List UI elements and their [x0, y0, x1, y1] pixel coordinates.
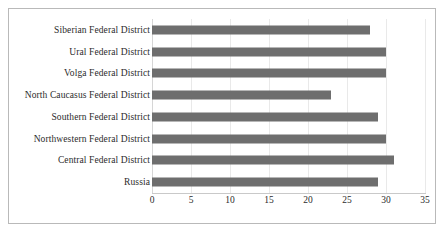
bar-row: Southern Federal District — [9, 106, 435, 128]
category-label: Ural Federal District — [69, 47, 150, 57]
x-tick-label-0: 0 — [150, 195, 155, 205]
category-label: Russia — [124, 177, 150, 187]
x-tick-label-35: 35 — [420, 195, 430, 205]
chart-frame: Siberian Federal DistrictUral Federal Di… — [8, 8, 436, 224]
x-axis-tick-labels: 05101520253035 — [9, 195, 435, 211]
bar-row: Ural Federal District — [9, 41, 435, 63]
bar-track — [152, 178, 431, 187]
x-tick-label-30: 30 — [381, 195, 391, 205]
bar[interactable] — [152, 91, 331, 100]
bar[interactable] — [152, 134, 386, 143]
bar-track — [152, 47, 431, 56]
x-tick-label-5: 5 — [189, 195, 194, 205]
bar-row: Russia — [9, 171, 435, 193]
bar-track — [152, 69, 431, 78]
x-tick-label-15: 15 — [264, 195, 274, 205]
bar-track — [152, 112, 431, 121]
bar-row: Northwestern Federal District — [9, 128, 435, 150]
bar-row: North Caucasus Federal District — [9, 84, 435, 106]
bar[interactable] — [152, 156, 394, 165]
bar-track — [152, 134, 431, 143]
bar-track — [152, 91, 431, 100]
category-label: Siberian Federal District — [54, 25, 150, 35]
x-axis-line — [152, 193, 426, 194]
category-label: Volga Federal District — [64, 68, 150, 78]
bar-rows: Siberian Federal DistrictUral Federal Di… — [9, 19, 435, 193]
x-tick-label-10: 10 — [225, 195, 235, 205]
bar[interactable] — [152, 47, 386, 56]
x-tick-label-25: 25 — [342, 195, 352, 205]
category-label: Northwestern Federal District — [34, 134, 150, 144]
bar-row: Volga Federal District — [9, 63, 435, 85]
category-label: Central Federal District — [58, 155, 150, 165]
bar-track — [152, 156, 431, 165]
bar[interactable] — [152, 25, 370, 34]
bar-track — [152, 25, 431, 34]
bar[interactable] — [152, 178, 378, 187]
category-label: Southern Federal District — [51, 112, 150, 122]
bar-row: Siberian Federal District — [9, 19, 435, 41]
x-tick-label-20: 20 — [303, 195, 313, 205]
plot-area: Siberian Federal DistrictUral Federal Di… — [9, 9, 435, 223]
bar[interactable] — [152, 69, 386, 78]
bar[interactable] — [152, 112, 378, 121]
bar-row: Central Federal District — [9, 150, 435, 172]
category-label: North Caucasus Federal District — [25, 90, 150, 100]
